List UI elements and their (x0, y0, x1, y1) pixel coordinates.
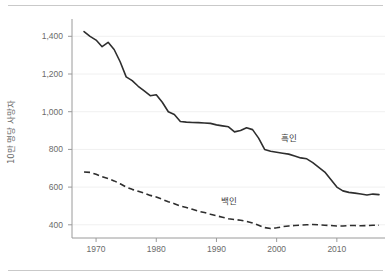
line-chart: 4006008001,0001,2001,400 197019801990200… (0, 0, 391, 280)
x-tick-2000: 2000 (267, 244, 286, 254)
y-tick-800: 800 (49, 144, 63, 154)
series-line-0 (84, 32, 379, 195)
x-tick-1970: 1970 (87, 244, 106, 254)
chart-figure: 4006008001,0001,2001,400 197019801990200… (0, 0, 391, 280)
series-label-1: 백인 (221, 196, 237, 206)
x-tick-2010: 2010 (327, 244, 346, 254)
y-axis-tick-labels: 4006008001,0001,2001,400 (42, 31, 64, 229)
y-tick-1200: 1,200 (42, 69, 64, 79)
y-tick-600: 600 (49, 182, 63, 192)
y-axis-title: 10만 명당 사망자 (6, 100, 16, 164)
x-axis-tick-labels: 19701980199020002010 (87, 244, 347, 254)
series-annotation-labels: 흑인백인 (221, 133, 297, 206)
y-tick-1000: 1,000 (42, 107, 64, 117)
y-tick-400: 400 (49, 220, 63, 230)
x-tick-1980: 1980 (147, 244, 166, 254)
x-tick-1990: 1990 (207, 244, 226, 254)
y-tick-1400: 1,400 (42, 31, 64, 41)
series-label-0: 흑인 (281, 133, 297, 143)
